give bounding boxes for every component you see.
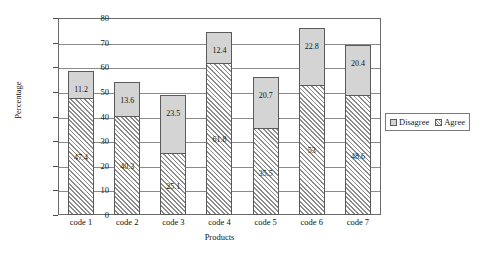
bar-value-label: 53 <box>300 147 324 155</box>
bar-segment-disagree[interactable]: 13.6 <box>114 82 140 115</box>
bar-segment-disagree[interactable]: 23.5 <box>160 95 186 153</box>
x-axis-tick-label: code 3 <box>151 217 195 227</box>
legend-swatch-icon <box>435 119 442 126</box>
bar-value-label: 23.5 <box>161 110 185 118</box>
bar-value-label: 20.7 <box>254 92 278 100</box>
y-axis-tick-mark <box>53 166 58 167</box>
y-axis-tick-mark <box>53 67 58 68</box>
y-axis-tick-mark <box>53 92 58 93</box>
y-axis-tick-mark <box>53 43 58 44</box>
x-axis-title: Products <box>58 232 381 242</box>
x-axis-tick-label: code 5 <box>244 217 288 227</box>
bar-segment-disagree[interactable]: 22.8 <box>299 28 325 84</box>
legend-item[interactable]: Disagree <box>390 117 429 127</box>
bar-value-label: 13.6 <box>115 97 139 105</box>
y-axis-tick-label: 20 <box>81 162 109 171</box>
y-axis-tick-label: 40 <box>81 113 109 122</box>
legend-swatch-icon <box>390 119 397 126</box>
y-axis-tick-mark <box>53 117 58 118</box>
y-axis-tick-mark <box>53 190 58 191</box>
x-axis-tick-label: code 4 <box>197 217 241 227</box>
bar-group[interactable]: 20.735.5 <box>253 18 279 215</box>
bar-group[interactable]: 12.461.8 <box>206 18 232 215</box>
y-axis-tick-label: 60 <box>81 63 109 72</box>
bar-group[interactable]: 23.525.1 <box>160 18 186 215</box>
x-axis-tick-label: code 7 <box>336 217 380 227</box>
legend: DisagreeAgree <box>385 113 470 131</box>
bar-group[interactable]: 20.448.6 <box>345 18 371 215</box>
bar-group[interactable]: 22.853 <box>299 18 325 215</box>
y-axis-tick-label: 0 <box>81 211 109 220</box>
bar-value-label: 48.6 <box>346 153 370 161</box>
bar-segment-agree[interactable]: 35.5 <box>253 128 279 215</box>
bar-segment-agree[interactable]: 40.3 <box>114 116 140 215</box>
y-axis-tick-mark <box>53 18 58 19</box>
bar-value-label: 35.5 <box>254 170 278 178</box>
y-axis-tick-mark <box>53 141 58 142</box>
legend-item[interactable]: Agree <box>435 117 465 127</box>
y-axis-tick-label: 80 <box>81 14 109 23</box>
y-axis-tick-label: 70 <box>81 39 109 48</box>
y-axis-tick-label: 10 <box>81 186 109 195</box>
bar-value-label: 40.3 <box>115 163 139 171</box>
bar-value-label: 22.8 <box>300 43 324 51</box>
stacked-bar-chart: Percentage 11.247.413.640.323.525.112.46… <box>0 0 494 256</box>
bar-segment-agree[interactable]: 61.8 <box>206 63 232 215</box>
bar-value-label: 61.8 <box>207 136 231 144</box>
y-axis-tick-label: 30 <box>81 137 109 146</box>
bar-group[interactable]: 13.640.3 <box>114 18 140 215</box>
bar-value-label: 25.1 <box>161 183 185 191</box>
bar-value-label: 12.4 <box>207 47 231 55</box>
bar-segment-disagree[interactable]: 20.4 <box>345 45 371 95</box>
legend-label: Disagree <box>399 117 429 127</box>
bar-segment-disagree[interactable]: 12.4 <box>206 32 232 63</box>
y-axis-tick-mark <box>53 215 58 216</box>
x-axis-tick-label: code 6 <box>290 217 334 227</box>
x-axis-tick-label: code 2 <box>105 217 149 227</box>
y-axis-title: Percentage <box>13 60 23 140</box>
bar-segment-disagree[interactable]: 20.7 <box>253 77 279 128</box>
bar-segment-agree[interactable]: 25.1 <box>160 153 186 215</box>
bar-segment-agree[interactable]: 48.6 <box>345 95 371 215</box>
bar-value-label: 20.4 <box>346 60 370 68</box>
bar-segment-agree[interactable]: 53 <box>299 85 325 216</box>
y-axis-tick-label: 50 <box>81 88 109 97</box>
legend-label: Agree <box>444 117 465 127</box>
